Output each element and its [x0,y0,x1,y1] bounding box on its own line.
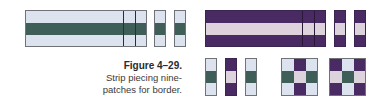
segment-light [175,35,185,46]
cut-segment-purple [334,10,346,47]
cell-green [246,71,256,83]
strip-row-light [26,35,146,46]
strip-row-purple [206,11,325,23]
cell-purple [330,59,342,71]
cut-line [314,11,315,46]
strip-set-purple [205,10,326,47]
segment-purple [355,35,365,46]
segment-light [175,11,185,23]
cell-light [282,59,294,71]
cell-green [282,71,294,83]
segment-pink [335,23,345,35]
cell-purple [354,59,365,71]
cell-purple [354,83,365,95]
strip-row-light [26,11,146,23]
segment-green [175,23,185,35]
cell-light [246,83,256,95]
segment-purple [355,11,365,23]
cell-light [206,83,216,95]
segment-green [155,23,165,35]
cut-segment-green [154,10,166,47]
caption-line: patches for border. [103,84,182,96]
nine-patch-1 [281,58,318,96]
cell-pink [226,71,236,83]
cell-green [206,71,216,83]
cell-pink [294,71,306,83]
cell-green [342,71,354,83]
cell-light [342,83,354,95]
figure-caption: Figure 4–29. Strip piecing nine- patches… [103,60,182,96]
cell-light [342,59,354,71]
segment-light [155,35,165,46]
cell-green [306,71,317,83]
segment-purple [335,35,345,46]
segment-purple [335,11,345,23]
cell-purple [294,83,306,95]
cut-segment-green [174,10,186,47]
cell-light [206,59,216,71]
cell-purple [226,83,236,95]
cell-purple [294,59,306,71]
cell-pink [354,71,365,83]
strip-set-green [25,10,147,47]
cell-light [246,59,256,71]
strip-row-green [26,23,146,35]
figure-label: Figure 4–29. [103,60,182,72]
segment-pink [355,23,365,35]
cell-purple [330,83,342,95]
nine-patch-2 [329,58,366,96]
cell-light [306,59,317,71]
cut-line [302,11,303,46]
segment-light [155,11,165,23]
cell-light [282,83,294,95]
strip-row-pink [206,23,325,35]
unit-c [245,58,257,96]
caption-line: Strip piecing nine- [103,72,182,84]
unit-b [225,58,237,96]
cell-purple [226,59,236,71]
unit-a [205,58,217,96]
cut-segment-purple [354,10,366,47]
strip-row-purple [206,35,325,46]
cell-light [306,83,317,95]
cut-line [123,11,124,46]
cell-pink [330,71,342,83]
cut-line [135,11,136,46]
